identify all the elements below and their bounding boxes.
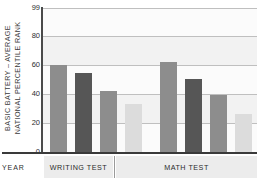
y-axis-line [41,7,43,153]
bar-series [42,8,257,152]
bar [100,91,117,152]
y-axis-title-line-1: BASIC BATTERY – AVERAGE [3,21,13,134]
y-tick-label: 80 [32,32,40,40]
bar [235,114,252,152]
y-tick-label: 40 [32,90,40,98]
y-axis-tick-labels: 02040608099 [24,0,40,158]
footer-year-label: YEAR [2,156,42,178]
bar [160,62,177,152]
bar [50,65,67,152]
plot-area [42,8,257,152]
y-tick-label: 99 [32,4,40,12]
y-axis-title: BASIC BATTERY – AVERAGE NATIONAL PERCENT… [0,0,26,155]
group-label-writing-test: WRITING TEST [44,156,113,178]
chart-footer: YEAR WRITING TEST MATH TEST [2,156,257,178]
y-tick-label: 60 [32,61,40,69]
bar [125,104,142,152]
bar [210,95,227,152]
y-tick-label: 20 [32,119,40,127]
y-axis-title-line-2: NATIONAL PERCENTILE RANK [13,21,23,134]
footer-separator [114,156,115,178]
group-label-math-test: MATH TEST [116,156,257,178]
bar [75,73,92,152]
bar [185,79,202,152]
chart-container: BASIC BATTERY – AVERAGE NATIONAL PERCENT… [0,0,259,183]
x-axis-line [2,152,257,154]
